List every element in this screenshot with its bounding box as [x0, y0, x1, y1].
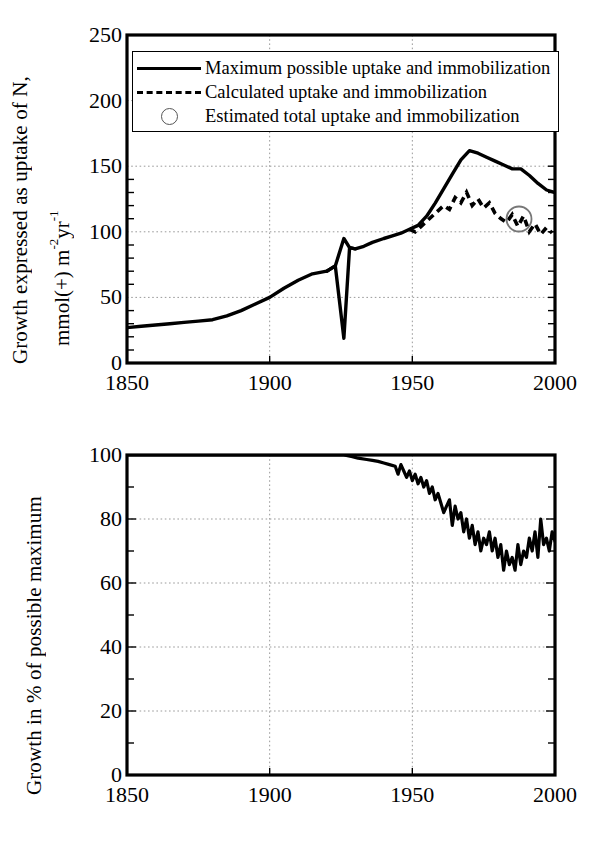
legend-label-estimated-total: Estimated total uptake and immobilizatio… [205, 107, 519, 126]
series-growth-percent-bottom [127, 455, 555, 570]
legend-label-calculated: Calculated uptake and immobilization [205, 83, 487, 102]
x-tick-label-top-1950: 1950 [362, 372, 462, 394]
x-tick-label-bottom-1900: 1900 [220, 784, 320, 806]
legend-item-calculated: Calculated uptake and immobilization [133, 80, 558, 104]
chart-panel-bottom: Growth in % of possible maximum 100 80 6… [0, 430, 601, 857]
figure-container: Growth expressed as uptake of N, mmol(+)… [0, 0, 601, 857]
legend-item-estimated-total: Estimated total uptake and immobilizatio… [133, 104, 558, 128]
x-tick-label-bottom-2000: 2000 [505, 784, 601, 806]
legend-top: Maximum possible uptake and immobilizati… [132, 51, 559, 132]
x-tick-label-bottom-1850: 1850 [77, 784, 177, 806]
gridlines-vertical-bottom [270, 455, 413, 775]
x-tick-label-top-1850: 1850 [77, 372, 177, 394]
legend-key-dashed-line-icon [133, 91, 205, 94]
x-tick-label-top-2000: 2000 [505, 372, 601, 394]
legend-label-max-possible: Maximum possible uptake and immobilizati… [205, 59, 550, 78]
plot-frame-bottom [127, 455, 555, 775]
legend-key-open-circle-icon [133, 108, 205, 125]
chart-panel-top: Growth expressed as uptake of N, mmol(+)… [0, 0, 601, 420]
minor-ticks-bottom [127, 487, 555, 743]
x-tick-label-bottom-1950: 1950 [362, 784, 462, 806]
x-tick-label-top-1900: 1900 [220, 372, 320, 394]
series-max-possible-top-detail [327, 239, 356, 272]
legend-key-solid-line-icon [133, 67, 205, 70]
legend-item-max-possible: Maximum possible uptake and immobilizati… [133, 56, 558, 80]
